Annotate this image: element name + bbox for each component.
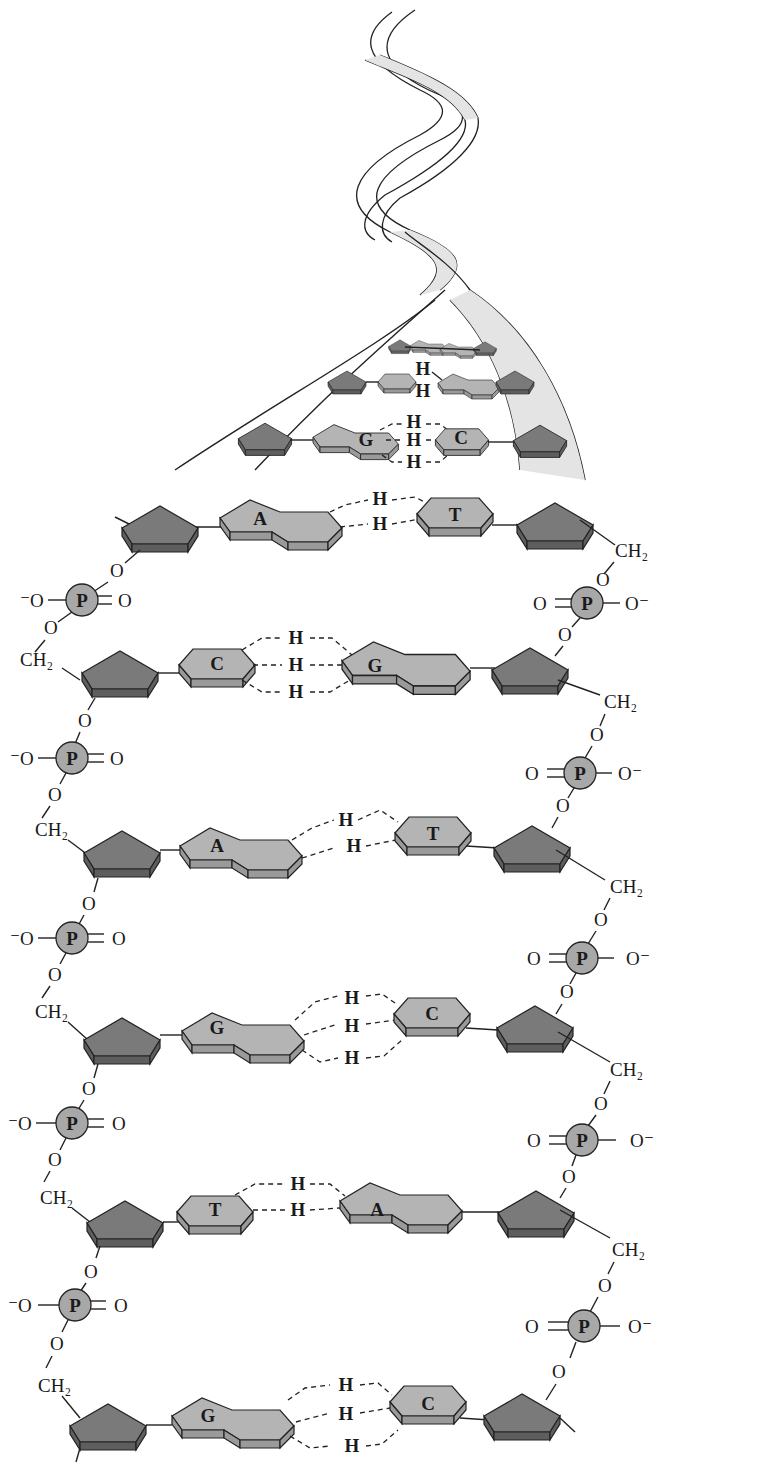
phosphate-group-left-5: O P ⁻O O O CH₂: [8, 1246, 128, 1418]
hydrogen-label: H: [291, 1199, 306, 1220]
base-label: G: [201, 1405, 216, 1426]
hydrogen-label: H: [373, 488, 388, 509]
hydrogen-label: H: [291, 1173, 306, 1194]
base-pair-2: C H H H G: [82, 627, 600, 702]
svg-text:O: O: [78, 710, 92, 731]
phosphate-group-right-4: CH₂ O P O O⁻ O: [527, 1059, 654, 1198]
svg-text:O: O: [118, 590, 132, 611]
hydrogen-label: H: [407, 429, 422, 450]
svg-text:O: O: [562, 1166, 576, 1187]
svg-text:O: O: [552, 1361, 566, 1382]
base-pair-3: A H H T: [84, 809, 605, 880]
phosphate-group-right-2: CH₂ O P O O⁻ O: [525, 691, 642, 828]
base-label: G: [368, 655, 383, 676]
svg-text:⁻O: ⁻O: [8, 1295, 32, 1316]
svg-text:O: O: [590, 724, 604, 745]
svg-text:CH₂: CH₂: [610, 1059, 643, 1080]
phosphate-group-left-4: O P ⁻O O O CH₂: [8, 1064, 126, 1222]
hydrogen-label: H: [345, 1435, 360, 1456]
svg-text:O: O: [596, 569, 610, 590]
svg-text:O: O: [594, 909, 608, 930]
svg-text:O: O: [84, 1261, 98, 1282]
svg-text:O: O: [594, 1093, 608, 1114]
svg-text:O: O: [533, 593, 547, 614]
base-label: A: [210, 835, 224, 856]
hydrogen-label: H: [416, 380, 431, 401]
hydrogen-label: H: [289, 627, 304, 648]
svg-text:CH₂: CH₂: [610, 876, 643, 897]
svg-text:⁻O: ⁻O: [8, 1113, 32, 1134]
hydrogen-label: H: [339, 1374, 354, 1395]
base-label: T: [449, 504, 462, 525]
svg-text:CH₂: CH₂: [35, 1001, 68, 1022]
phosphate-label: P: [576, 1130, 588, 1151]
svg-text:O: O: [112, 1113, 126, 1134]
base-pair-1: A H H T: [115, 488, 615, 552]
svg-text:O: O: [558, 624, 572, 645]
svg-text:O: O: [50, 1333, 64, 1354]
svg-text:O⁻: O⁻: [626, 948, 650, 969]
dna-structure-graphic: H H G H H H C A H H T: [0, 0, 768, 1467]
sugar-right: [517, 503, 593, 549]
hydrogen-label: H: [345, 1047, 360, 1068]
hydrogen-label: H: [289, 654, 304, 675]
svg-text:O⁻: O⁻: [628, 1316, 652, 1337]
sugar-left: [122, 506, 198, 552]
svg-text:O: O: [527, 1130, 541, 1151]
svg-text:O: O: [527, 948, 541, 969]
phosphate-label: P: [66, 748, 78, 769]
svg-text:CH₂: CH₂: [604, 691, 637, 712]
hydrogen-label: H: [345, 1015, 360, 1036]
dna-diagram: H H G H H H C A H H T: [0, 0, 768, 1467]
phosphate-label: P: [69, 1295, 81, 1316]
svg-text:CH₂: CH₂: [40, 1187, 73, 1208]
svg-text:O: O: [110, 748, 124, 769]
hydrogen-label: H: [339, 1403, 354, 1424]
svg-text:CH₂: CH₂: [615, 540, 648, 561]
svg-text:CH₂: CH₂: [20, 649, 53, 670]
svg-text:⁻O: ⁻O: [10, 928, 34, 949]
svg-text:O⁻: O⁻: [630, 1130, 654, 1151]
svg-text:O: O: [556, 795, 570, 816]
phosphate-label: P: [581, 593, 593, 614]
double-helix-ribbon: [175, 10, 585, 480]
base-label: T: [427, 823, 440, 844]
svg-text:CH₂: CH₂: [38, 1375, 71, 1396]
svg-text:O⁻: O⁻: [618, 763, 642, 784]
hydrogen-label: H: [339, 809, 354, 830]
svg-text:O: O: [598, 1275, 612, 1296]
base-label: T: [209, 1199, 222, 1220]
base-label: A: [370, 1199, 384, 1220]
base-label: C: [454, 427, 468, 448]
svg-text:O: O: [525, 763, 539, 784]
phosphate-group-right-5: CH₂ O P O O⁻ O: [525, 1239, 652, 1400]
phosphate-label: P: [66, 1113, 78, 1134]
svg-text:O: O: [82, 1078, 96, 1099]
phosphate-label: P: [66, 928, 78, 949]
svg-text:CH₂: CH₂: [35, 819, 68, 840]
hydrogen-label: H: [345, 987, 360, 1008]
base-label: C: [425, 1003, 439, 1024]
svg-text:O: O: [114, 1295, 128, 1316]
hydrogen-label: H: [407, 451, 422, 472]
svg-text:O: O: [112, 928, 126, 949]
base-label: C: [210, 653, 224, 674]
svg-text:CH₂: CH₂: [612, 1239, 645, 1260]
phosphate-group-left-3: O P ⁻O O O CH₂: [10, 878, 126, 1040]
base-pair-5: T H H A: [87, 1173, 610, 1247]
helix-rung-1: [389, 340, 497, 359]
svg-text:O: O: [82, 893, 96, 914]
svg-text:O: O: [48, 964, 62, 985]
phosphate-group-right-3: CH₂ O P O O⁻ O: [527, 876, 650, 1014]
phosphate-group-left-2: O P ⁻O O O CH₂: [10, 698, 124, 855]
hydrogen-label: H: [373, 513, 388, 534]
phosphate-label: P: [76, 590, 88, 611]
purine-base: [220, 500, 342, 550]
svg-text:O: O: [560, 981, 574, 1002]
phosphate-group-right-1: CH₂ O P O O⁻ O: [533, 540, 649, 656]
base-pair-6: G H H H C: [70, 1374, 575, 1462]
hydrogen-label: H: [289, 681, 304, 702]
base-label: G: [359, 429, 374, 450]
base-label: C: [421, 1393, 435, 1414]
base-label: G: [210, 1017, 225, 1038]
